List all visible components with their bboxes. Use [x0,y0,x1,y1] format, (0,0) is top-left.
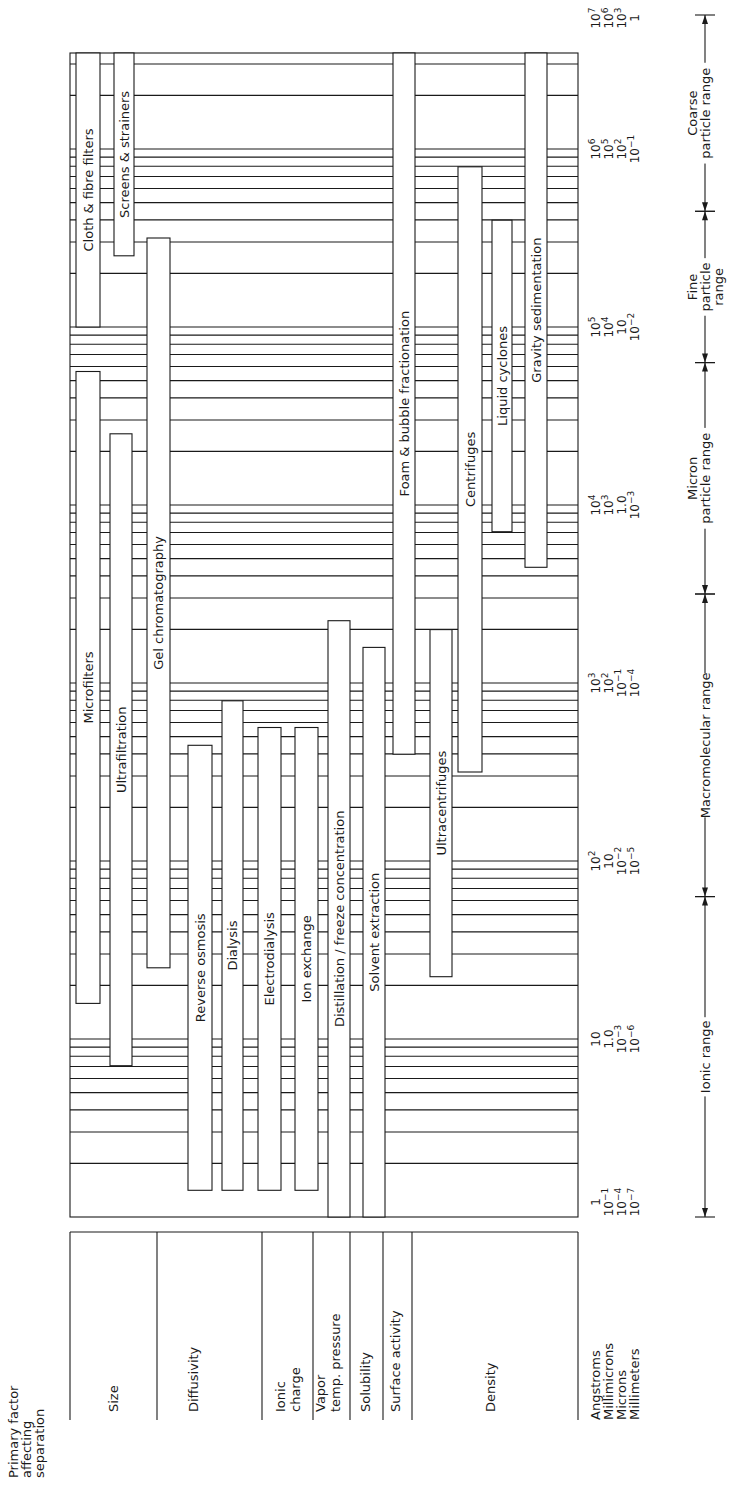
bar-label: Screens & strainers [117,91,132,218]
tick-exponent: −2 [613,847,623,860]
process-bars: Cloth & fibre filtersScreens & strainers… [76,53,547,1217]
tick-label: 10−6 [626,1024,642,1053]
bar-label: Ultrafiltration [114,706,129,793]
tick-exponent: −2 [626,313,636,326]
tick-label: 10−2 [626,313,642,342]
arrowhead [702,211,708,220]
tick-exponent: 5 [587,316,597,322]
tick-label: 102 [587,850,603,871]
range-label: Ionic range [698,1020,713,1093]
tick-exponent: −1 [613,669,623,682]
tick-label: 10−1 [626,135,642,164]
range-label: Macromolecular range [698,672,713,818]
bar-label: Gel chromatography [152,536,167,670]
tick-exponent: −3 [626,491,636,504]
arrowhead [702,1208,708,1217]
bar-label: Cloth & fibre filters [81,128,96,251]
arrowhead [702,354,708,363]
bar-label: Reverse osmosis [193,913,208,1022]
bar-label: Ultracentrifuges [434,751,449,856]
arrowhead [702,585,708,594]
arrowhead [702,202,708,211]
tick-exponent: −7 [626,1188,636,1201]
tick-label: 10−4 [626,668,642,697]
tick-exponent: 7 [587,7,597,13]
chart-title: separation [32,1409,47,1478]
factor-label: Diffusivity [186,1346,201,1412]
tick-exponent: 5 [600,138,610,144]
bar-label: Centrifuges [463,432,478,507]
tick-label: 10−3 [626,491,642,520]
factor-label: Ionic [273,1381,288,1412]
size-axis: AngstromsMillimicronsMicronsMillimeters1… [587,7,642,1420]
arrowhead [702,594,708,603]
factor-label: charge [288,1367,303,1412]
bar-label: Gravity sedimentation [529,238,544,383]
tick-exponent: 2 [613,138,623,144]
arrowhead [702,15,708,24]
factor-header: SizeDiffusivityIonicchargeVaportemp. pre… [6,1232,578,1478]
factor-label: temp. pressure [328,1314,343,1412]
tick-label: 103 [613,7,629,28]
tick-exponent: 6 [587,138,597,144]
tick-exponent: −1 [626,135,636,148]
tick-label: 10 [589,1031,603,1046]
arrowhead [702,897,708,906]
factor-label: Solubility [358,1352,373,1412]
tick-label: 10−5 [626,847,642,876]
tick-exponent: 6 [600,7,610,13]
particle-ranges: Ionic rangeMacromolecular rangeMicronpar… [685,15,726,1217]
tick-exponent: 3 [587,672,597,678]
unit-label: Millimeters [627,1348,642,1420]
tick-label: 1 [628,14,642,22]
tick-exponent: −4 [613,1187,623,1201]
bar-label: Distillation / freeze concentration [332,811,347,1027]
tick-exponent: −6 [626,1024,636,1038]
tick-exponent: 4 [600,316,610,322]
arrowhead [702,363,708,372]
separation-process-chart: Cloth & fibre filtersScreens & strainers… [0,0,749,1497]
range-label: particle range [698,68,713,159]
factor-label: Density [483,1362,498,1412]
bar-label: Electrodialysis [263,912,278,1006]
range-label: particle range [698,433,713,524]
bar-label: Solvent extraction [367,873,382,992]
bar-label: Liquid cyclones [495,326,510,426]
bar-label: Dialysis [226,920,241,970]
tick-exponent: 2 [587,850,597,856]
factor-label: Size [106,1385,121,1412]
tick-exponent: −5 [626,847,636,860]
arrowhead [702,888,708,897]
tick-label: 104 [600,316,616,337]
tick-exponent: −4 [626,668,636,682]
tick-exponent: 3 [600,494,610,500]
factor-label: Vapor [313,1374,328,1412]
tick-label: 10−7 [626,1188,642,1217]
tick-exponent: 3 [613,7,623,13]
tick-exponent: −3 [613,1025,623,1038]
bar-label: Foam & bubble fractionation [397,311,412,497]
tick-exponent: 2 [600,672,610,678]
tick-label: 103 [600,494,616,515]
tick-exponent: 4 [587,494,597,500]
tick-exponent: −1 [600,1188,610,1201]
range-label: range [711,268,726,306]
bar-label: Microfilters [81,651,96,723]
factor-label: Surface activity [388,1310,403,1412]
bar-label: Ion exchange [300,915,315,1002]
